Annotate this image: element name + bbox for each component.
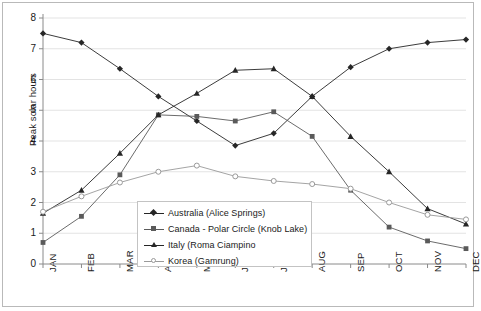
data-point-diamond <box>386 46 392 52</box>
data-point-square <box>464 246 469 251</box>
data-point-circle <box>348 186 353 191</box>
data-point-circle <box>271 178 276 183</box>
data-point-diamond <box>155 93 161 99</box>
data-point-triangle <box>194 90 200 96</box>
legend-marker-triangle-icon <box>144 240 164 250</box>
data-point-circle <box>425 212 430 217</box>
series-australia-alice-springs <box>40 30 469 148</box>
series-line <box>43 33 466 145</box>
legend-marker-diamond-icon <box>144 208 164 218</box>
data-point-square <box>425 239 430 244</box>
data-point-diamond <box>117 66 123 72</box>
data-point-square <box>387 225 392 230</box>
data-point-diamond <box>40 30 46 36</box>
data-point-diamond <box>78 40 84 46</box>
data-point-square <box>79 214 84 219</box>
legend-label: Australia (Alice Springs) <box>168 208 265 218</box>
legend-item-korea: Korea (Gamrung) <box>144 254 239 268</box>
data-point-square <box>118 172 123 177</box>
data-point-square <box>233 119 238 124</box>
data-point-circle <box>387 200 392 205</box>
legend: Australia (Alice Springs) Canada - Polar… <box>137 201 312 267</box>
data-point-square <box>194 114 199 119</box>
data-point-square <box>271 109 276 114</box>
legend-label: Canada - Polar Circle (Knob Lake) <box>168 224 307 234</box>
legend-label: Italy (Roma Ciampino <box>168 240 256 250</box>
data-point-circle <box>194 163 199 168</box>
data-point-circle <box>41 209 46 214</box>
legend-marker-circle-icon <box>144 256 164 266</box>
legend-item-italy: Italy (Roma Ciampino <box>144 238 256 252</box>
legend-item-australia: Australia (Alice Springs) <box>144 206 265 220</box>
data-point-square <box>41 240 46 245</box>
data-point-circle <box>79 194 84 199</box>
data-point-diamond <box>194 118 200 124</box>
data-point-circle <box>310 182 315 187</box>
legend-marker-square-icon <box>144 224 164 234</box>
data-point-circle <box>233 174 238 179</box>
data-point-circle <box>464 217 469 222</box>
legend-label: Korea (Gamrung) <box>168 256 239 266</box>
data-point-square <box>310 134 315 139</box>
data-point-circle <box>156 169 161 174</box>
data-point-circle <box>117 180 122 185</box>
legend-item-canada: Canada - Polar Circle (Knob Lake) <box>144 222 307 236</box>
data-point-diamond <box>232 143 238 149</box>
data-point-diamond <box>424 40 430 46</box>
data-point-diamond <box>463 36 469 42</box>
